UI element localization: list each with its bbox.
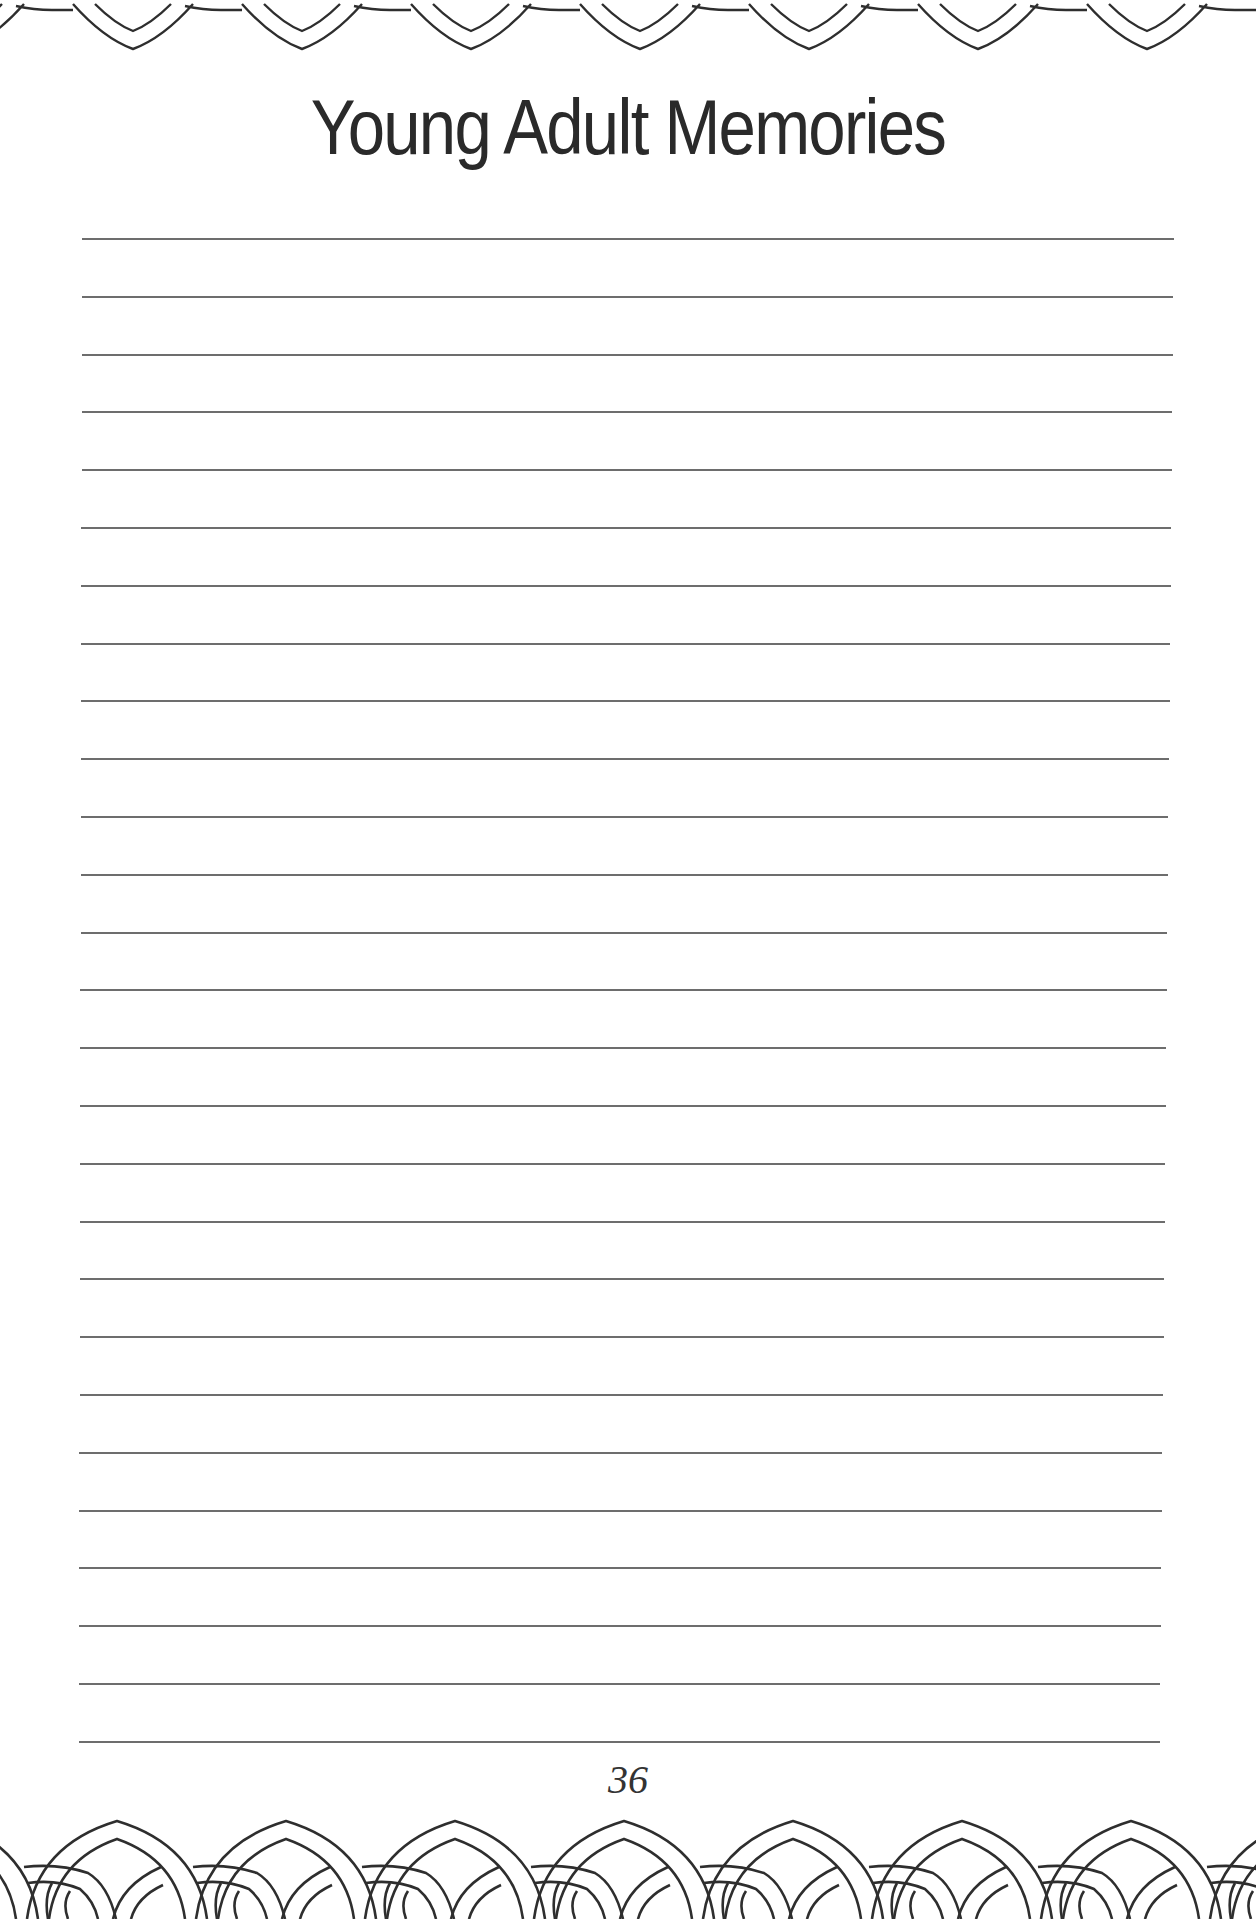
- writing-line: [79, 1741, 1160, 1743]
- writing-line: [79, 1452, 1162, 1454]
- writing-line: [80, 1278, 1164, 1280]
- writing-line: [81, 527, 1171, 529]
- writing-line: [81, 932, 1167, 934]
- writing-line: [82, 354, 1173, 356]
- writing-line: [81, 758, 1169, 760]
- writing-line: [81, 700, 1170, 702]
- writing-line: [81, 585, 1171, 587]
- writing-line: [81, 643, 1170, 645]
- writing-line: [80, 1163, 1165, 1165]
- bottom-rings-border-icon: [0, 1805, 1256, 1919]
- writing-line: [79, 1510, 1162, 1512]
- writing-line: [80, 1394, 1163, 1396]
- writing-lines: [0, 0, 1256, 1919]
- writing-line: [80, 1221, 1165, 1223]
- writing-line: [79, 1567, 1161, 1569]
- writing-line: [82, 296, 1173, 298]
- writing-line: [79, 1683, 1160, 1685]
- writing-line: [81, 874, 1168, 876]
- writing-line: [82, 469, 1172, 471]
- writing-line: [79, 1625, 1161, 1627]
- writing-line: [80, 1105, 1166, 1107]
- writing-line: [80, 1336, 1164, 1338]
- writing-line: [80, 989, 1167, 991]
- writing-line: [80, 1047, 1166, 1049]
- writing-line: [81, 816, 1168, 818]
- writing-line: [82, 411, 1172, 413]
- page-number: 36: [0, 1760, 1256, 1800]
- writing-line: [82, 238, 1174, 240]
